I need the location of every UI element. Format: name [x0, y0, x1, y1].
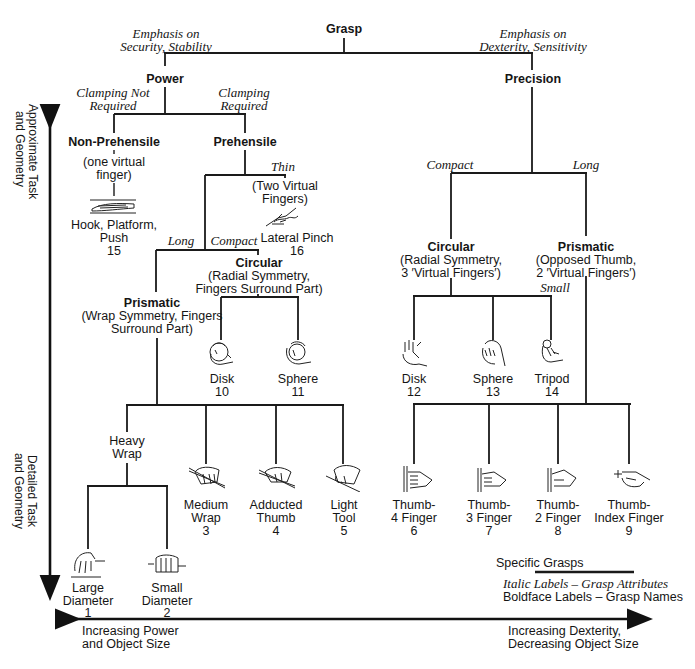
- heavy-wrap-line1: Heavy: [109, 434, 144, 448]
- grasp-3-name-line2: Wrap: [191, 511, 221, 525]
- thumb-4-finger-hand-icon: [400, 464, 436, 494]
- clamping-required-line2: Required: [220, 99, 267, 113]
- power-prismatic-label: Prismatic: [124, 296, 180, 310]
- axis-power-line1: Increasing Power: [82, 624, 179, 638]
- grasp-4-name-line2: Thumb: [257, 511, 296, 525]
- grasp-1-number: 1: [85, 606, 92, 620]
- grasp-5-number: 5: [341, 524, 348, 538]
- compact-attr-power: Compact: [211, 234, 258, 248]
- grasp-9-number: 9: [626, 524, 633, 538]
- axis-power-line2: and Object Size: [82, 637, 170, 651]
- axis-approximate-line2: and Geometry: [13, 104, 26, 194]
- grasp-12-name: Disk: [402, 372, 426, 386]
- precision-prismatic-desc-line1: (Opposed Thumb,: [536, 253, 637, 267]
- axis-detailed-task: Detailed Task and Geometry: [12, 451, 38, 531]
- adducted-thumb-hand-icon: [257, 464, 297, 490]
- tripod-hand-icon: [535, 338, 569, 368]
- grasp-13-number: 13: [486, 385, 500, 399]
- axis-detailed-line2: and Geometry: [12, 451, 25, 531]
- grasp-10-number: 10: [215, 385, 229, 399]
- power-prismatic-desc-line1: (Wrap Symmetry, Fingers: [81, 309, 222, 323]
- grasp-1-name-line1: Large: [72, 581, 104, 595]
- grasp-14-number: 14: [545, 385, 559, 399]
- axis-dexterity-line1: Increasing Dexterity,: [508, 624, 621, 638]
- legend-boldface-labels: Boldface Labels – Grasp Names: [503, 590, 683, 604]
- grasp-2-number: 2: [164, 606, 171, 620]
- grasp-6-name-line2: 4 Finger: [391, 511, 437, 525]
- precision-prismatic-desc-line2: 2 ′Virtual Fingers′): [536, 266, 636, 280]
- lateral-pinch-hand-icon: [262, 206, 302, 230]
- precision-circular-desc-line1: (Radial Symmetry,: [400, 253, 502, 267]
- axis-approximate-line1: Approximate Task: [26, 104, 39, 194]
- thin-attr: Thin: [271, 160, 295, 174]
- long-attr-precision: Long: [573, 158, 600, 172]
- grasp-15-name-line2: Push: [100, 231, 129, 245]
- precision-circular-desc-line2: 3 ′Virtual Fingers′): [401, 266, 501, 280]
- hook-platform-hand-icon: [88, 197, 140, 215]
- grasp-7-name-line1: Thumb-: [467, 498, 510, 512]
- grasp-taxonomy-diagram: Emphasis on Security, Stability Grasp Em…: [0, 0, 695, 669]
- grasp-3-number: 3: [203, 524, 210, 538]
- two-virtual-fingers-line2: Fingers): [262, 192, 308, 206]
- grasp-13-name: Sphere: [473, 372, 513, 386]
- grasp-9-name-line1: Thumb-: [607, 498, 650, 512]
- grasp-16-name: Lateral Pinch: [261, 231, 334, 245]
- grasp-5-name-line2: Tool: [333, 511, 356, 525]
- emphasis-dexterity-line2: Dexterity, Sensitivity: [479, 40, 587, 54]
- compact-attr-precision: Compact: [427, 158, 474, 172]
- grasp-2-name-line1: Small: [151, 581, 182, 595]
- two-virtual-fingers-line1: (Two Virtual: [252, 179, 318, 193]
- precision-label: Precision: [505, 72, 561, 86]
- large-diameter-hand-icon: [69, 549, 107, 579]
- grasp-16-number: 16: [290, 244, 304, 258]
- clamping-not-required-line2: Required: [89, 99, 136, 113]
- grasp-4-number: 4: [273, 524, 280, 538]
- grasp-3-name-line1: Medium: [184, 498, 228, 512]
- precision-circular-label: Circular: [427, 240, 474, 254]
- legend-specific-grasps: Specific Grasps: [496, 556, 584, 570]
- grasp-6-name-line1: Thumb-: [392, 498, 435, 512]
- disk-precision-hand-icon: [399, 338, 433, 368]
- grasp-4-name-line1: Adducted: [250, 498, 303, 512]
- grasp-7-name-line2: 3 Finger: [466, 511, 512, 525]
- grasp-11-name: Sphere: [278, 372, 318, 386]
- non-prehensile-label: Non-Prehensile: [68, 135, 160, 149]
- heavy-wrap-line2: Wrap: [112, 447, 142, 461]
- grasp-root-label: Grasp: [326, 22, 362, 36]
- light-tool-hand-icon: [324, 464, 364, 492]
- thumb-index-finger-hand-icon: [612, 466, 652, 492]
- axis-detailed-line1: Detailed Task: [25, 451, 38, 531]
- grasp-5-name-line1: Light: [330, 498, 357, 512]
- thumb-2-finger-hand-icon: [544, 464, 580, 494]
- long-attr-power: Long: [168, 234, 195, 248]
- medium-wrap-hand-icon: [187, 464, 227, 490]
- grasp-8-number: 8: [555, 524, 562, 538]
- legend-italic-labels: Italic Labels – Grasp Attributes: [503, 577, 668, 591]
- power-circular-label: Circular: [235, 256, 282, 270]
- grasp-10-name: Disk: [210, 372, 234, 386]
- grasp-11-number: 11: [292, 385, 305, 399]
- small-attr: Small: [540, 281, 570, 295]
- grasp-6-number: 6: [411, 524, 418, 538]
- non-prehensile-desc-line2: finger): [96, 168, 131, 182]
- sphere-power-hand-icon: [281, 340, 315, 370]
- emphasis-security-line2: Security, Stability: [120, 40, 212, 54]
- grasp-8-name-line1: Thumb-: [536, 498, 579, 512]
- thumb-3-finger-hand-icon: [474, 464, 510, 494]
- prehensile-label: Prehensile: [213, 135, 276, 149]
- grasp-7-number: 7: [486, 524, 493, 538]
- grasp-15-name-line1: Hook, Platform,: [71, 218, 157, 232]
- power-prismatic-desc-line2: Surround Part): [111, 322, 193, 336]
- non-prehensile-desc-line1: (one virtual: [83, 155, 145, 169]
- small-diameter-hand-icon: [148, 552, 186, 576]
- sphere-precision-hand-icon: [475, 338, 509, 368]
- disk-power-hand-icon: [205, 340, 239, 370]
- axis-approximate-task: Approximate Task and Geometry: [13, 104, 39, 194]
- grasp-12-number: 12: [407, 385, 421, 399]
- power-label: Power: [146, 72, 184, 86]
- power-circular-desc-line2: Fingers Surround Part): [195, 282, 322, 296]
- axis-dexterity-line2: Decreasing Object Size: [508, 637, 639, 651]
- power-circular-desc-line1: (Radial Symmetry,: [208, 269, 310, 283]
- grasp-9-name-line2: Index Finger: [594, 511, 663, 525]
- grasp-15-number: 15: [107, 244, 121, 258]
